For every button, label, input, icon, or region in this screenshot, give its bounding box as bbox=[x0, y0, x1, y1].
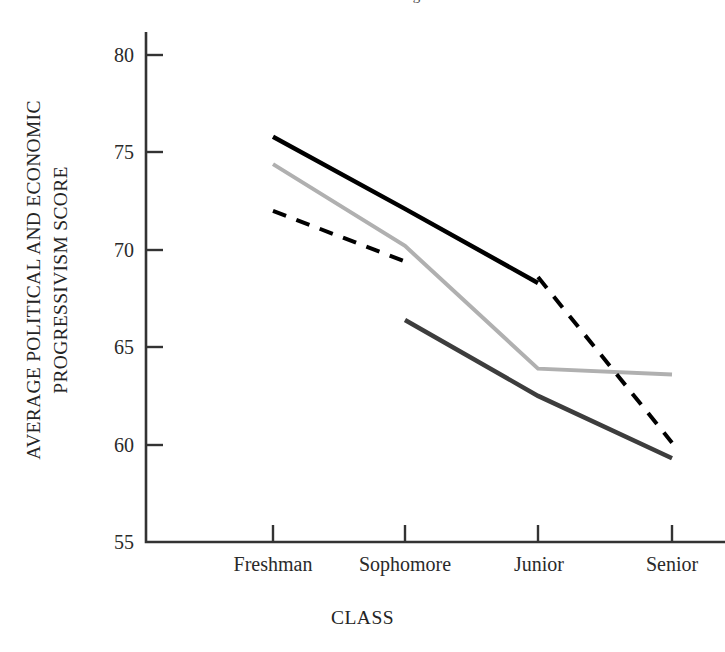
series-line-black-dashed-seg1 bbox=[273, 211, 405, 262]
plot-area bbox=[0, 0, 725, 652]
x-tick-marks bbox=[273, 525, 672, 542]
series-line-light-gray-solid bbox=[273, 164, 672, 374]
progressivism-line-chart: Political and Economic Progressivism AVE… bbox=[0, 0, 725, 652]
axis-spines bbox=[146, 32, 725, 542]
series-line-black-solid bbox=[273, 137, 538, 283]
series-line-black-dashed-seg2 bbox=[538, 277, 672, 443]
series-line-dark-gray-solid bbox=[405, 320, 672, 458]
y-tick-marks bbox=[146, 55, 163, 445]
data-series-layer bbox=[273, 137, 672, 458]
